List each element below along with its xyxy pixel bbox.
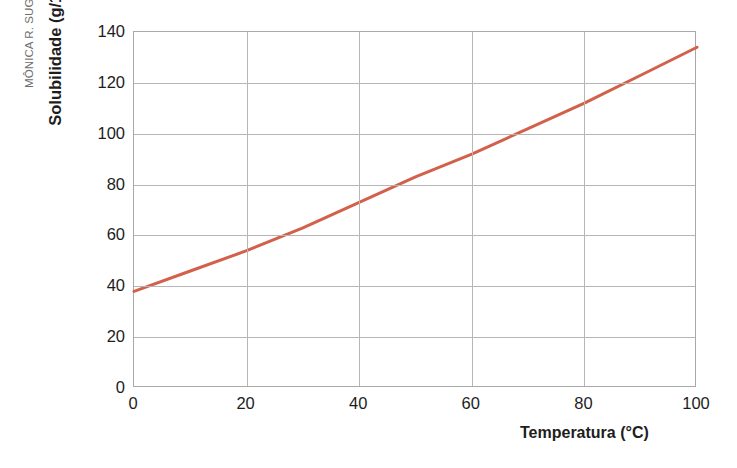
- y-axis-tick-label: 60: [65, 226, 125, 242]
- gridline-vertical: [247, 32, 248, 386]
- plot-area: [133, 31, 696, 387]
- y-axis-tick-label: 40: [65, 277, 125, 293]
- gridline-horizontal: [134, 286, 695, 287]
- gridline-horizontal: [134, 337, 695, 338]
- x-axis-tick-label: 100: [666, 394, 726, 412]
- gridline-vertical: [472, 32, 473, 386]
- y-axis-tick-label: 20: [65, 328, 125, 344]
- x-axis-title: Temperatura (°C): [520, 424, 649, 442]
- y-axis-tick-label: 120: [65, 74, 125, 90]
- x-axis-tick-label: 20: [216, 394, 276, 412]
- series-line-solubilidade: [134, 32, 697, 388]
- image-credit: MÔNICA R. SUGUIYAMA/Acervo da editora: [20, 0, 38, 88]
- x-axis-tick-label: 0: [103, 394, 163, 412]
- gridline-horizontal: [134, 235, 695, 236]
- x-axis-tick-labels: 020406080100: [133, 394, 696, 416]
- x-axis-tick-label: 80: [553, 394, 613, 412]
- gridline-horizontal: [134, 83, 695, 84]
- x-axis-tick-label: 60: [441, 394, 501, 412]
- gridline-horizontal: [134, 185, 695, 186]
- y-axis-tick-label: 100: [65, 125, 125, 141]
- y-axis-tick-label: 0: [65, 379, 125, 395]
- x-axis-tick-label: 40: [328, 394, 388, 412]
- y-axis-tick-label: 80: [65, 176, 125, 192]
- y-axis-tick-label: 140: [65, 23, 125, 39]
- gridline-vertical: [359, 32, 360, 386]
- gridline-horizontal: [134, 134, 695, 135]
- y-axis-tick-labels: 020406080100120140: [60, 31, 125, 387]
- chart-figure: MÔNICA R. SUGUIYAMA/Acervo da editora So…: [0, 0, 737, 468]
- gridline-vertical: [584, 32, 585, 386]
